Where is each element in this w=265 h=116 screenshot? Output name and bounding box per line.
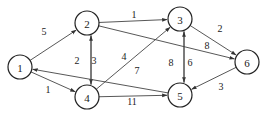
node-label: 1 [17, 62, 23, 74]
edge-weight-label: 5 [42, 26, 47, 37]
node-6: 6 [235, 50, 259, 74]
edge-1-to-4 [31, 72, 75, 92]
edge-weight-label: 7 [135, 65, 140, 76]
node-label: 3 [177, 14, 183, 26]
edge-6-to-5 [192, 67, 237, 89]
edge-weight-label: 2 [218, 23, 223, 34]
node-4: 4 [75, 85, 99, 109]
edge-weight-label: 3 [92, 55, 97, 66]
edge-weight-label: 6 [188, 57, 193, 68]
node-3: 3 [168, 7, 192, 31]
node-label: 4 [84, 92, 90, 104]
edge-weight-label: 3 [219, 81, 224, 92]
edges-group: 51123482867113 [30, 9, 236, 107]
node-label: 6 [244, 57, 250, 69]
edge-weight-label: 4 [122, 51, 127, 62]
node-2: 2 [75, 11, 99, 35]
node-label: 5 [177, 90, 183, 102]
node-5: 5 [168, 83, 192, 107]
edge-weight-label: 8 [205, 40, 210, 51]
edge-weight-label: 1 [132, 9, 137, 20]
edge-4-to-3 [96, 27, 170, 89]
edge-weight-label: 2 [75, 55, 80, 66]
edge-5-to-1 [33, 69, 168, 93]
edge-1-to-2 [30, 30, 76, 60]
edge-weight-label: 11 [127, 96, 137, 107]
edge-weight-label: 8 [169, 57, 174, 68]
node-1: 1 [8, 55, 32, 79]
node-label: 2 [84, 18, 90, 30]
edge-weight-label: 1 [46, 84, 51, 95]
edge-3-to-6 [190, 25, 236, 54]
directed-graph: 51123482867113 123456 [0, 0, 265, 116]
edge-2-to-3 [99, 20, 167, 23]
